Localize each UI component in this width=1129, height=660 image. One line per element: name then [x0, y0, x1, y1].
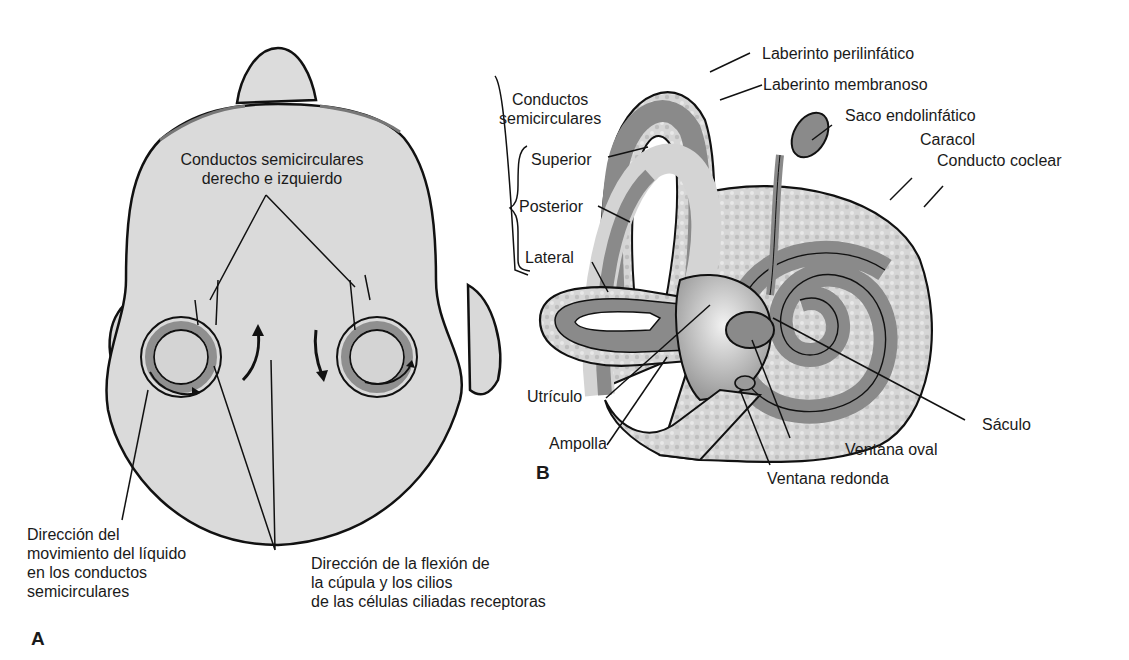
label-perilymph-labyrinth: Laberinto perilinfático — [762, 44, 914, 63]
label-canals-right-left: Conductos semicirculares derecho e izqui… — [157, 150, 387, 188]
label-round-window: Ventana redonda — [767, 469, 889, 488]
label-semicircular-canals: Conductos semicirculares — [499, 90, 601, 128]
label-superior: Superior — [531, 150, 591, 169]
label-membranous-labyrinth: Laberinto membranoso — [763, 75, 928, 94]
label-ampulla: Ampolla — [549, 434, 607, 453]
head-top-view — [106, 48, 500, 550]
label-cupula-flexion: Dirección de la flexión de la cúpula y l… — [311, 554, 546, 611]
label-lateral: Lateral — [525, 248, 574, 267]
label-endolymphatic-sac: Saco endolinfático — [845, 106, 976, 125]
panel-letter-b: B — [536, 462, 550, 484]
label-cochlea: Caracol — [920, 130, 975, 149]
label-oval-window: Ventana oval — [845, 440, 938, 459]
label-saccule: Sáculo — [982, 415, 1031, 434]
panel-letter-a: A — [31, 628, 45, 650]
label-posterior: Posterior — [519, 197, 583, 216]
label-fluid-direction: Dirección del movimiento del líquido en … — [27, 525, 186, 601]
label-cochlear-duct: Conducto coclear — [937, 151, 1062, 170]
label-utricle: Utrículo — [527, 387, 582, 406]
